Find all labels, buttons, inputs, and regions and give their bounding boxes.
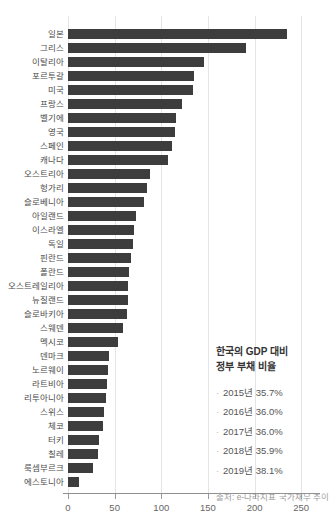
bar-row: 스페인 [2,139,318,153]
bar-row: 스웨덴 [2,321,318,335]
category-label: 영국 [2,128,68,137]
bullet-dot-icon: · [216,403,219,421]
category-label: 칠레 [2,450,68,459]
annotation-item: ·2019년 38.1% [216,461,328,480]
annotation-item-text: 2017년 36.0% [223,422,283,441]
category-label: 핀란드 [2,254,68,263]
bar-track [68,183,318,193]
bar-track [68,85,318,95]
category-label: 리투아니아 [2,394,68,403]
category-label: 에스토니아 [2,478,68,487]
bar-track [68,267,318,277]
bar [68,183,147,193]
bar [68,393,106,403]
bar-track [68,239,318,249]
bar [68,71,194,81]
bar [68,169,150,179]
korea-annotation: 한국의 GDP 대비 정부 부채 비율 ·2015년 35.7% ·2016년 … [216,344,328,502]
category-label: 헝가리 [2,184,68,193]
category-label: 미국 [2,86,68,95]
bar [68,225,134,235]
gdp-debt-bar-chart: 일본그리스이탈리아포르투갈미국프랑스벨기에영국스페인캐나다오스트리아헝가리슬로베… [0,0,334,532]
bar-track [68,155,318,165]
category-label: 이탈리아 [2,58,68,67]
bar-row: 슬로바키아 [2,307,318,321]
bar-track [68,43,318,53]
category-label: 덴마크 [2,352,68,361]
axis-tick-label: 150 [200,502,216,513]
bar-row: 뉴질랜드 [2,293,318,307]
annotation-item-text: 2016년 36.0% [223,402,283,421]
bar [68,463,93,473]
bar [68,85,193,95]
annotation-item-text: 2018년 35.9% [223,441,283,460]
bar-row: 슬로베니아 [2,195,318,209]
category-label: 뉴질랜드 [2,296,68,305]
bar [68,323,123,333]
bar-row: 오스트리아 [2,167,318,181]
annotation-list: ·2015년 35.7% ·2016년 36.0% ·2017년 36.0% ·… [216,383,328,480]
category-label: 슬로베니아 [2,198,68,207]
category-label: 그리스 [2,44,68,53]
category-label: 노르웨이 [2,366,68,375]
annotation-item-text: 2019년 38.1% [223,461,283,480]
bar-track [68,57,318,67]
category-label: 프랑스 [2,100,68,109]
bar [68,407,104,417]
category-label: 체코 [2,422,68,431]
category-label: 스위스 [2,408,68,417]
category-label: 벨기에 [2,114,68,123]
axis-tick-label: 250 [293,502,309,513]
bar-row: 그리스 [2,41,318,55]
category-label: 독일 [2,240,68,249]
axis-tick-label: 100 [153,502,169,513]
category-label: 룩셈부르크 [2,464,68,473]
bar-row: 폴란드 [2,265,318,279]
bar-track [68,29,318,39]
bar [68,281,128,291]
annotation-title-line1: 한국의 GDP 대비 [216,344,328,359]
bar-row: 이탈리아 [2,55,318,69]
annotation-item: ·2017년 36.0% [216,422,328,441]
bar [68,155,168,165]
bar-row: 미국 [2,83,318,97]
bullet-dot-icon: · [216,442,219,460]
bar [68,141,172,151]
bar-row: 벨기에 [2,111,318,125]
bar [68,449,98,459]
bar [68,421,103,431]
bar-track [68,169,318,179]
bar [68,113,176,123]
bar [68,295,128,305]
category-label: 오스트레일리아 [2,282,68,291]
bar-row: 독일 [2,237,318,251]
bar-track [68,309,318,319]
bar-track [68,197,318,207]
bar [68,309,127,319]
annotation-title-line2: 정부 부채 비율 [216,359,328,374]
bar [68,211,136,221]
annotation-title: 한국의 GDP 대비 정부 부채 비율 [216,344,328,374]
category-label: 스웨덴 [2,324,68,333]
bar [68,435,99,445]
bar [68,197,144,207]
bar [68,337,118,347]
bar-row: 영국 [2,125,318,139]
bar [68,43,246,53]
bar-track [68,323,318,333]
bar-row: 캐나다 [2,153,318,167]
annotation-item: ·2018년 35.9% [216,441,328,460]
bar-row: 이스라엘 [2,223,318,237]
annotation-item: ·2015년 35.7% [216,383,328,402]
bar-track [68,99,318,109]
category-label: 오스트리아 [2,170,68,179]
axis-tick-label: 0 [65,502,70,513]
bar [68,379,107,389]
annotation-item: ·2016년 36.0% [216,402,328,421]
bar-track [68,141,318,151]
bar [68,127,175,137]
category-label: 멕시코 [2,338,68,347]
axis-tick [68,494,69,499]
bar-track [68,211,318,221]
annotation-source: 출처: e-나라지표 국가채무 추이 [216,490,328,502]
